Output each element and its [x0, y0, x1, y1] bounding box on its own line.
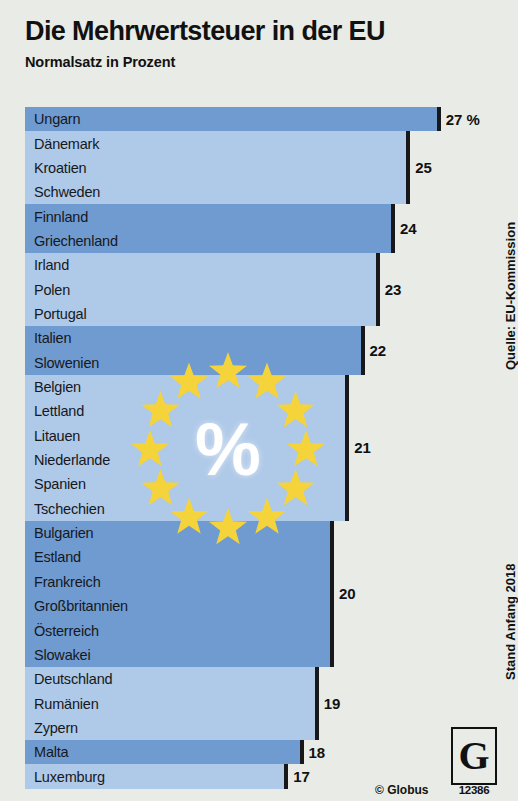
country-row: Österreich [34, 624, 99, 639]
bar-group: 27 %Ungarn [25, 107, 488, 131]
country-row: Lettland [34, 404, 84, 419]
bar-group: 23IrlandPolenPortugal [25, 253, 488, 326]
country-row: Portugal [34, 307, 86, 322]
country-row: Slowenien [34, 356, 99, 371]
country-row: Niederlande [34, 453, 110, 468]
value-tick [361, 326, 365, 375]
country-row: Malta [34, 745, 68, 760]
bar-group: 25DänemarkKroatienSchweden [25, 131, 488, 204]
value-tick [406, 131, 410, 204]
country-row: Estland [34, 550, 81, 565]
copyright-label: © Globus [375, 784, 429, 796]
globus-g-letter: G [453, 729, 495, 783]
country-row: Tschechien [34, 502, 105, 517]
country-row: Ungarn [34, 112, 80, 127]
value-tick [300, 740, 304, 764]
graphic-number: 12386 [451, 785, 497, 797]
country-row: Rumänien [34, 697, 99, 712]
bar-value-label: 20 [339, 586, 356, 601]
country-row: Belgien [34, 380, 81, 395]
country-row: Litauen [34, 429, 80, 444]
country-row: Bulgarien [34, 526, 93, 541]
source-note: Quelle: EU-Kommission [503, 222, 518, 370]
bar-value-label: 21 [354, 440, 371, 455]
header: Die Mehrwertsteuer in der EU Normalsatz … [25, 18, 488, 100]
bar-value-label: 18 [309, 745, 326, 760]
bar [25, 521, 330, 667]
country-row: Italien [34, 331, 71, 346]
bar-value-label: 22 [370, 343, 387, 358]
bar-group: 22ItalienSlowenien [25, 326, 488, 375]
bar-group: 24FinnlandGriechenland [25, 204, 488, 253]
country-row: Slowakei [34, 648, 90, 663]
bar-value-label: 19 [324, 696, 341, 711]
bar-value-label: 25 [415, 160, 432, 175]
bar-value-label: 17 [293, 769, 310, 784]
date-note: Stand Anfang 2018 [503, 563, 518, 680]
vat-bar-chart: 27 %Ungarn25DänemarkKroatienSchweden24Fi… [25, 107, 488, 791]
country-row: Luxemburg [34, 770, 105, 785]
country-row: Griechenland [34, 234, 118, 249]
value-tick [376, 253, 380, 326]
country-row: Großbritannien [34, 599, 128, 614]
bar-group: 19DeutschlandRumänienZypern [25, 667, 488, 740]
bar-value-label: 27 % [446, 112, 480, 127]
value-tick [437, 107, 441, 131]
country-row: Deutschland [34, 672, 112, 687]
bar-value-label: 24 [400, 221, 417, 236]
country-row: Zypern [34, 721, 78, 736]
value-tick [315, 667, 319, 740]
page-title: Die Mehrwertsteuer in der EU [25, 18, 488, 45]
value-tick [284, 764, 288, 788]
globus-logo: G [451, 727, 497, 785]
country-row: Frankreich [34, 575, 101, 590]
country-row: Schweden [34, 185, 100, 200]
value-tick [345, 375, 349, 521]
country-row: Polen [34, 283, 70, 298]
bar [25, 375, 345, 521]
page-subtitle: Normalsatz in Prozent [25, 54, 488, 70]
bar [25, 107, 437, 131]
country-row: Dänemark [34, 137, 99, 152]
country-row: Finnland [34, 210, 88, 225]
value-tick [330, 521, 334, 667]
bar-group: 20BulgarienEstlandFrankreichGroßbritanni… [25, 521, 488, 667]
country-row: Spanien [34, 477, 86, 492]
country-row: Kroatien [34, 161, 86, 176]
bar-value-label: 23 [385, 282, 402, 297]
bar-group: 21BelgienLettlandLitauenNiederlandeSpani… [25, 375, 488, 521]
country-row: Irland [34, 258, 69, 273]
value-tick [391, 204, 395, 253]
bar-group: 18Malta [25, 740, 488, 764]
